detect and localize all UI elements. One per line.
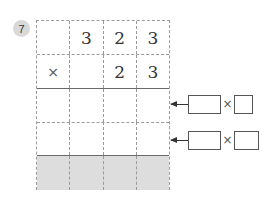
grid-row-multiplicand: 3 2 3 (37, 21, 169, 55)
multiplication-grid: 3 2 3 × 2 3 (36, 20, 170, 190)
grid-cell[interactable] (70, 55, 103, 88)
answer-cell[interactable] (104, 122, 137, 155)
problem-number-badge: 7 (13, 20, 30, 37)
answer-cell[interactable] (137, 156, 169, 190)
answer-cell[interactable] (70, 89, 103, 122)
grid-row-partial-product-1 (37, 89, 169, 123)
times-sign: × (221, 95, 234, 114)
grid-row-partial-product-2 (37, 122, 169, 156)
problem-number: 7 (18, 23, 24, 35)
hint-box-multiplicand[interactable] (188, 131, 221, 150)
grid-cell[interactable] (37, 21, 70, 54)
grid-cell[interactable]: 2 (104, 21, 137, 54)
hint-row-2: × (171, 131, 259, 150)
multiply-sign: × (37, 55, 70, 88)
hint-box-multiplicand[interactable] (188, 95, 221, 114)
answer-cell[interactable] (37, 89, 70, 122)
hint-row-1: × (171, 95, 253, 114)
answer-cell[interactable] (104, 156, 137, 190)
hint-box-multiplier[interactable] (234, 131, 259, 150)
grid-cell[interactable]: 3 (70, 21, 103, 54)
times-sign: × (221, 131, 234, 150)
grid-row-final-product (37, 156, 169, 190)
answer-cell[interactable] (37, 122, 70, 155)
grid-cell[interactable]: 3 (137, 55, 169, 88)
answer-cell[interactable] (70, 156, 103, 190)
grid-cell[interactable]: 2 (104, 55, 137, 88)
hint-box-multiplier[interactable] (234, 95, 253, 114)
answer-cell[interactable] (137, 89, 169, 122)
answer-cell[interactable] (137, 122, 169, 155)
grid-cell[interactable]: 3 (137, 21, 169, 54)
answer-cell[interactable] (37, 156, 70, 190)
grid-row-multiplier: × 2 3 (37, 55, 169, 89)
left-arrow-icon (171, 140, 188, 141)
answer-cell[interactable] (104, 89, 137, 122)
answer-cell[interactable] (70, 122, 103, 155)
left-arrow-icon (171, 104, 188, 105)
